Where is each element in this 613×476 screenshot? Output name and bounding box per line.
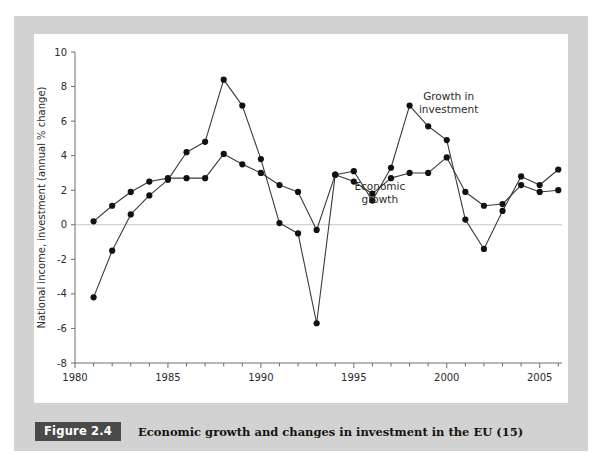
- data-point-marker: [406, 102, 412, 108]
- data-point-marker: [425, 170, 431, 176]
- y-tick-label: 10: [54, 47, 67, 58]
- data-point-marker: [183, 149, 189, 155]
- chart-axes: [75, 52, 562, 363]
- series-line-1: [94, 154, 559, 230]
- data-point-marker: [388, 165, 394, 171]
- data-point-marker: [239, 161, 245, 167]
- data-point-marker: [518, 173, 524, 179]
- series-annotations: Growth ininvestmentEconomicgrowth: [354, 90, 478, 205]
- data-point-marker: [221, 77, 227, 83]
- x-tick-label: 1985: [155, 372, 180, 383]
- data-point-marker: [462, 189, 468, 195]
- data-point-marker: [444, 137, 450, 143]
- data-point-marker: [202, 139, 208, 145]
- figure-caption-text: Economic growth and changes in investmen…: [138, 425, 523, 439]
- data-point-marker: [146, 178, 152, 184]
- data-point-marker: [537, 189, 543, 195]
- y-tick-label: 2: [61, 185, 67, 196]
- x-tick-label: 1990: [248, 372, 273, 383]
- data-point-marker: [90, 218, 96, 224]
- y-tick-label: 8: [61, 81, 67, 92]
- data-point-marker: [332, 172, 338, 178]
- data-point-marker: [314, 227, 320, 233]
- data-point-marker: [351, 168, 357, 174]
- data-point-marker: [555, 187, 561, 193]
- data-point-marker: [146, 192, 152, 198]
- y-axis-ticks: -8-6-4-20246810: [54, 47, 75, 369]
- data-point-marker: [128, 189, 134, 195]
- data-point-marker: [499, 208, 505, 214]
- x-tick-label: 1995: [341, 372, 366, 383]
- figure-caption-strip: Figure 2.4 Economic growth and changes i…: [14, 412, 588, 451]
- x-tick-label: 2000: [434, 372, 459, 383]
- figure-number-badge: Figure 2.4: [35, 422, 121, 442]
- series-annotation-label: Growth ininvestment: [419, 90, 478, 115]
- data-point-marker: [314, 320, 320, 326]
- data-point-marker: [555, 166, 561, 172]
- data-point-marker: [518, 182, 524, 188]
- data-point-marker: [276, 220, 282, 226]
- data-point-marker: [295, 189, 301, 195]
- data-series: [90, 77, 561, 327]
- data-point-marker: [128, 211, 134, 217]
- x-tick-label: 1980: [62, 372, 87, 383]
- data-point-marker: [258, 156, 264, 162]
- data-point-marker: [202, 175, 208, 181]
- data-point-marker: [239, 102, 245, 108]
- plot-canvas: -8-6-4-20246810 198019851990199520002005…: [34, 34, 568, 403]
- data-point-marker: [462, 216, 468, 222]
- y-tick-label: 4: [61, 150, 67, 161]
- data-point-marker: [90, 294, 96, 300]
- y-tick-label: -8: [57, 358, 67, 369]
- y-tick-label: 0: [61, 219, 67, 230]
- data-point-marker: [221, 151, 227, 157]
- x-tick-label: 2005: [527, 372, 552, 383]
- y-tick-label: -2: [57, 254, 67, 265]
- data-point-marker: [258, 170, 264, 176]
- data-point-marker: [537, 182, 543, 188]
- data-point-marker: [183, 175, 189, 181]
- y-axis-title: National income, investment (annual % ch…: [36, 86, 47, 328]
- y-tick-label: -4: [57, 288, 67, 299]
- data-point-marker: [165, 177, 171, 183]
- data-point-marker: [444, 154, 450, 160]
- y-tick-label: -6: [57, 323, 67, 334]
- data-point-marker: [109, 203, 115, 209]
- figure-root: -8-6-4-20246810 198019851990199520002005…: [0, 0, 613, 476]
- data-point-marker: [406, 170, 412, 176]
- data-point-marker: [425, 123, 431, 129]
- series-annotation-label: Economicgrowth: [354, 180, 405, 205]
- data-point-marker: [276, 182, 282, 188]
- line-chart: -8-6-4-20246810 198019851990199520002005…: [34, 34, 568, 403]
- data-point-marker: [295, 230, 301, 236]
- x-axis-ticks: 198019851990199520002005: [62, 363, 558, 383]
- y-axis-title-text: National income, investment (annual % ch…: [36, 86, 47, 328]
- data-point-marker: [481, 203, 487, 209]
- y-tick-label: 6: [61, 116, 67, 127]
- data-point-marker: [481, 246, 487, 252]
- data-point-marker: [109, 248, 115, 254]
